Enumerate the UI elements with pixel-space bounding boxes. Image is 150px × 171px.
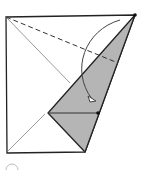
origami-diagram (0, 0, 150, 171)
reference-dot-top-right (133, 13, 137, 17)
reference-dot-edge (96, 111, 100, 115)
